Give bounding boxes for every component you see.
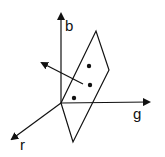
normal-vector [42,63,83,84]
data-point [88,83,92,87]
r-axis [12,103,61,139]
r-axis-label: r [20,136,25,153]
b-axis-label: b [65,17,73,34]
rgb-plane-diagram: b g r [0,0,165,157]
data-point [87,64,91,68]
plane [61,31,109,142]
g-axis [61,102,149,103]
data-point [72,96,76,100]
g-axis-label: g [133,105,141,122]
